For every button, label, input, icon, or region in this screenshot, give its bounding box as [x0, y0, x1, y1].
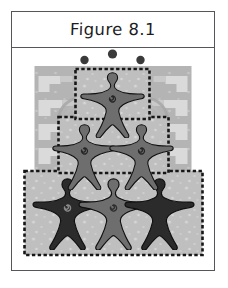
- dot-right: [136, 56, 144, 64]
- pyramid-illustration-svg: [12, 48, 214, 270]
- illustration-canvas: [12, 48, 214, 270]
- dots-above-group: [80, 49, 144, 64]
- page-title: Figure 8.1: [70, 20, 157, 39]
- figure-page: Figure 8.1: [0, 0, 228, 288]
- dot-left: [80, 56, 88, 64]
- dot-center: [108, 49, 117, 58]
- figure-frame: Figure 8.1: [11, 11, 215, 271]
- figure-title-bar: Figure 8.1: [12, 12, 214, 48]
